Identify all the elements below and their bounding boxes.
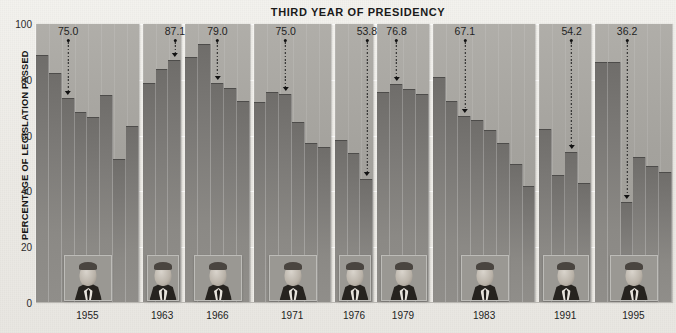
- bar[interactable]: [49, 73, 62, 303]
- x-axis-labels: 195519631966197119761979198319911995: [0, 310, 676, 330]
- third-year-annotation: 75.0: [58, 26, 78, 95]
- x-tick-label: 1971: [281, 310, 303, 321]
- bar-group: [36, 24, 139, 303]
- annotation-arrow-icon: [65, 91, 71, 95]
- annotation-leader-line: [366, 42, 367, 172]
- annotation-arrow-icon: [394, 77, 400, 81]
- bar[interactable]: [318, 147, 331, 303]
- portrait-hair: [557, 262, 575, 270]
- annotation-value: 75.0: [58, 25, 78, 37]
- x-tick-label: 1979: [392, 310, 414, 321]
- annotation-arrow-icon: [283, 87, 289, 91]
- annotation-leader-line: [285, 42, 286, 87]
- third-year-annotation: 87.1: [165, 26, 185, 57]
- third-year-annotation: 79.0: [207, 26, 227, 80]
- annotation-value: 53.8: [357, 25, 377, 37]
- bar[interactable]: [113, 159, 126, 303]
- y-tick-label: 80: [4, 74, 32, 85]
- president-portrait: [461, 255, 509, 301]
- annotation-leader-line: [396, 42, 397, 77]
- president-portrait: [339, 255, 372, 301]
- annotation-leader-line: [464, 42, 465, 109]
- portrait-hair: [284, 262, 302, 270]
- annotation-value: 75.0: [276, 25, 296, 37]
- bar-group: [143, 24, 182, 303]
- bar[interactable]: [126, 126, 139, 303]
- third-year-annotation: 76.8: [386, 26, 406, 81]
- annotation-arrow-icon: [364, 172, 370, 176]
- annotation-arrow-icon: [214, 76, 220, 80]
- portrait-hair: [476, 262, 494, 270]
- bar-group: [433, 24, 536, 303]
- annotation-value: 67.1: [455, 25, 475, 37]
- chart-title: THIRD YEAR OF PRESIDENCY: [0, 6, 676, 18]
- bar[interactable]: [510, 164, 523, 304]
- president-portrait: [610, 255, 658, 301]
- x-tick-label: 1966: [206, 310, 228, 321]
- bar[interactable]: [659, 172, 672, 303]
- third-year-annotation: 53.8: [357, 26, 377, 176]
- president-portrait: [64, 255, 112, 301]
- y-tick-label: 40: [4, 186, 32, 197]
- annotation-leader-line: [217, 42, 218, 76]
- bar[interactable]: [595, 62, 608, 303]
- y-tick-label: 100: [4, 19, 32, 30]
- third-year-annotation: 75.0: [276, 26, 296, 91]
- president-portrait: [269, 255, 317, 301]
- axis-baseline: [36, 302, 672, 303]
- chart-root: THIRD YEAR OF PRESIDENCY PERCENTAGE OF L…: [0, 0, 676, 333]
- x-tick-label: 1983: [473, 310, 495, 321]
- x-tick-label: 1963: [151, 310, 173, 321]
- annotation-arrow-icon: [624, 195, 630, 199]
- annotation-leader-line: [571, 42, 572, 145]
- portrait-hair: [346, 262, 364, 270]
- president-portrait: [543, 255, 588, 301]
- annotation-value: 76.8: [386, 25, 406, 37]
- portrait-hair: [395, 262, 413, 270]
- y-tick-label: 20: [4, 242, 32, 253]
- third-year-annotation: 54.2: [561, 26, 581, 149]
- bar[interactable]: [446, 101, 459, 303]
- y-axis-ticks: 020406080100: [0, 0, 32, 333]
- portrait-hair: [209, 262, 227, 270]
- annotation-value: 79.0: [207, 25, 227, 37]
- annotation-value: 87.1: [165, 25, 185, 37]
- x-tick-label: 1991: [554, 310, 576, 321]
- x-tick-label: 1976: [343, 310, 365, 321]
- third-year-annotation: 36.2: [617, 26, 637, 199]
- annotation-value: 36.2: [617, 25, 637, 37]
- portrait-hair: [79, 262, 97, 270]
- annotation-leader-line: [627, 42, 628, 195]
- y-tick-label: 0: [4, 298, 32, 309]
- bar[interactable]: [523, 186, 536, 303]
- bar[interactable]: [254, 102, 267, 303]
- annotation-arrow-icon: [172, 53, 178, 57]
- x-tick-label: 1995: [622, 310, 644, 321]
- third-year-annotation: 67.1: [455, 26, 475, 113]
- x-tick-label: 1955: [76, 310, 98, 321]
- annotation-arrow-icon: [569, 145, 575, 149]
- portrait-hair: [154, 262, 172, 270]
- annotation-value: 54.2: [561, 25, 581, 37]
- y-tick-label: 60: [4, 130, 32, 141]
- bar[interactable]: [36, 55, 49, 303]
- bar[interactable]: [433, 77, 446, 303]
- president-portrait: [194, 255, 242, 301]
- annotation-leader-line: [68, 42, 69, 91]
- annotation-leader-line: [174, 42, 175, 53]
- president-portrait: [147, 255, 180, 301]
- president-portrait: [381, 255, 426, 301]
- annotation-arrow-icon: [462, 109, 468, 113]
- portrait-hair: [625, 262, 643, 270]
